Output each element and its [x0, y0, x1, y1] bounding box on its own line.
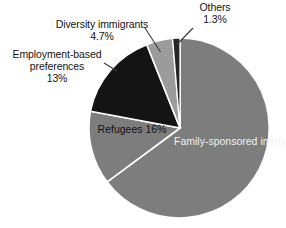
pie-label-family-sponsored-immigrants: Family-sponsored immigrants 65%	[174, 136, 270, 148]
pie-label-employment-based-preferences-text2: preferences	[3, 61, 111, 73]
pie-label-refugees: Refugees 16%	[93, 124, 171, 136]
pie-label-others-text: Others	[183, 2, 247, 14]
pie-label-diversity-immigrants-text: Diversity immigrants	[40, 19, 164, 31]
pie-label-employment-based-preferences-value: 13%	[3, 73, 111, 85]
pie-label-diversity-immigrants: Diversity immigrants 4.7%	[40, 19, 164, 43]
pie-label-others-value: 1.3%	[183, 14, 247, 26]
pie-label-refugees-value: 16%	[145, 123, 166, 135]
pie-label-refugees-text: Refugees	[98, 123, 143, 135]
pie-label-employment-based-preferences: Employment-based preferences 13%	[3, 49, 111, 84]
pie-label-employment-based-preferences-text: Employment-based	[3, 49, 111, 61]
pie-label-family-sponsored-immigrants-text2: immigrants	[260, 135, 286, 147]
pie-label-family-sponsored-immigrants-text: Family-sponsored	[174, 135, 257, 147]
pie-label-others: Others 1.3%	[183, 2, 247, 26]
pie-label-diversity-immigrants-value: 4.7%	[40, 31, 164, 43]
pie-chart-figure: Others 1.3% Diversity immigrants 4.7% Em…	[0, 0, 286, 228]
